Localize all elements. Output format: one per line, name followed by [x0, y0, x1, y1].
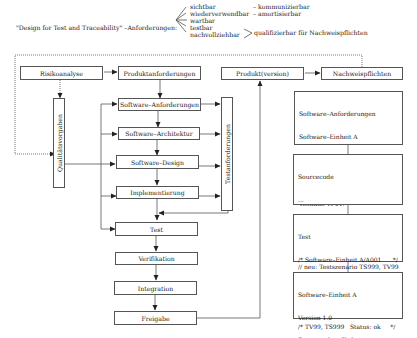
header-title: "Design for Test and Traceability" –Anfo…	[16, 24, 177, 31]
property-qualifizierbar: qualifizierbar für Nachweispflichten	[254, 29, 368, 36]
node-qualitaetsvorgaben: Qualitätsvorgaben	[53, 98, 65, 188]
node-testanforderungen: Testanforderungen	[221, 97, 233, 211]
property-amortisierbar: – amortisierbar	[253, 10, 301, 17]
node-freigabe: Freigabe	[114, 311, 197, 325]
property-nachvollziehbar: nachvollziehbar	[190, 31, 240, 38]
node-produktversion: Produkt(version)	[221, 67, 304, 80]
node-verifikation: Verifikation	[115, 252, 198, 265]
node-test: Test	[115, 222, 198, 236]
node-risikoanalyse: Risikoanalyse	[20, 66, 103, 80]
testanforderungen-label: Testanforderungen	[224, 124, 231, 184]
node-produktanforderungen: Produktanforderungen	[118, 66, 201, 80]
node-integration: Integration	[114, 281, 197, 295]
node-software-anforderungen: Software–Anforderungen	[118, 98, 201, 111]
unit-doc: Software–Einheit A Version 1.0 Sourcecod…	[293, 272, 403, 319]
qualitaetsvorgaben-label: Qualitätsvorgaben	[56, 114, 63, 172]
node-software-design: Software–Design	[116, 155, 199, 169]
node-implementierung: Implementierung	[116, 186, 199, 199]
node-nachweispflichten: Nachweispflichten	[321, 67, 403, 80]
test-doc: Test /* Software–Einheit A/A001 */ /* TV…	[293, 214, 403, 262]
requirements-doc: Software–Anforderungen Software–Einheit …	[294, 91, 403, 145]
sourcecode-doc: Sourcecode ... /* Software–Einheit A/A00…	[293, 154, 403, 205]
node-software-architektur: Software–Architektur	[118, 127, 200, 140]
